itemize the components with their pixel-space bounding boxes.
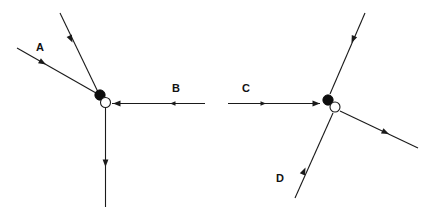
left-ray-a <box>17 48 96 93</box>
right-ray-d <box>295 113 333 198</box>
left-ray-upper <box>60 13 98 92</box>
left-ray-b <box>112 101 205 107</box>
right-open-node <box>330 102 340 112</box>
right-ray-upper-line <box>330 13 365 94</box>
right-ray-lower-right <box>340 111 418 148</box>
left-ray-a-arrowhead <box>38 58 47 67</box>
figure-canvas: A B C D <box>0 0 436 210</box>
right-ray-lower-right-arrowhead <box>381 128 390 136</box>
left-ray-vertical-arrowhead <box>103 160 109 168</box>
label-a: A <box>36 41 44 53</box>
left-ray-vertical <box>103 107 109 207</box>
right-ray-upper-arrowhead <box>349 35 357 44</box>
left-ray-b-arrowhead <box>113 101 121 107</box>
left-open-node <box>101 98 111 108</box>
left-ray-upper-line <box>60 13 98 92</box>
label-c: C <box>242 82 250 94</box>
left-ray-b-mid-tick <box>170 101 176 106</box>
right-ray-c-arrowhead <box>313 101 321 107</box>
right-ray-d-line <box>295 113 333 198</box>
vector-diagram-svg: A B C D <box>0 0 436 210</box>
right-ray-upper <box>330 13 365 94</box>
label-d: D <box>276 172 284 184</box>
right-ray-c <box>228 101 320 107</box>
right-vector-diagram <box>228 13 418 198</box>
right-ray-lower-right-line <box>340 111 418 148</box>
left-ray-a-line <box>17 48 96 93</box>
right-ray-c-mid-tick <box>261 101 267 106</box>
label-b: B <box>172 82 180 94</box>
left-vector-diagram <box>17 13 205 207</box>
